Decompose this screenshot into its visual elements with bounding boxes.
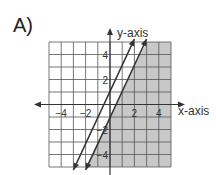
y-axis-label: y-axis bbox=[117, 26, 148, 40]
y-tick-label: 2 bbox=[102, 75, 108, 86]
x-axis-label: x-axis bbox=[178, 104, 209, 118]
x-tick-label: 2 bbox=[132, 108, 138, 119]
x-tick-label: −2 bbox=[80, 108, 92, 119]
x-tick-label: 4 bbox=[156, 108, 162, 119]
y-tick-label: 4 bbox=[102, 50, 108, 61]
y-tick-label: −4 bbox=[97, 150, 109, 161]
graph: −4−22442−2−4x-axisy-axis bbox=[0, 0, 216, 175]
x-tick-label: −4 bbox=[55, 108, 67, 119]
